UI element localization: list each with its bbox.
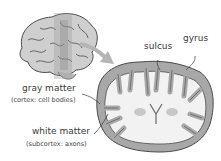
label-gray-matter-note: (cortex: cell bodies) — [11, 96, 76, 104]
label-sulcus: sulcus — [144, 41, 172, 51]
label-gray-matter: gray matter — [22, 83, 76, 93]
label-gyrus: gyrus — [183, 33, 208, 43]
brain-diagram: sulcus gyrus gray matter (cortex: cell b… — [0, 0, 221, 161]
coronal-section — [97, 61, 213, 152]
brain-illustration — [0, 0, 221, 161]
label-white-matter-note: (subcortex: axons) — [26, 140, 87, 148]
label-white-matter: white matter — [32, 126, 90, 136]
